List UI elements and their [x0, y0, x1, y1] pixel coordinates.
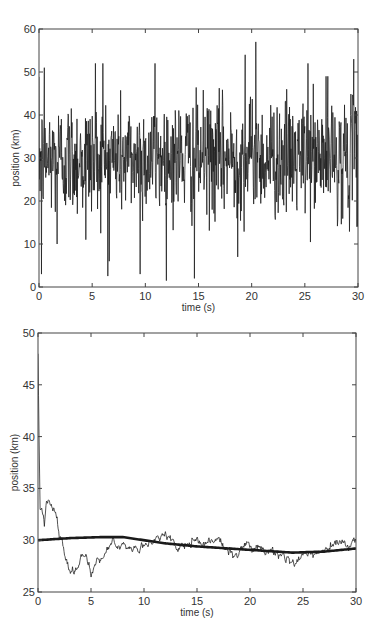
- x-tick-label: 10: [139, 290, 151, 302]
- chart-top-measured-position: 0510152025300102030405060time (s)positio…: [10, 23, 364, 313]
- x-tick-label: 15: [191, 595, 203, 607]
- x-axis-label: time (s): [182, 302, 215, 313]
- series-smoothed-estimate: [38, 537, 356, 553]
- x-tick-label: 15: [192, 290, 204, 302]
- x-tick-label: 5: [88, 595, 94, 607]
- x-tick-label: 0: [36, 290, 42, 302]
- y-axis-label: position (km): [10, 129, 21, 186]
- y-tick-label: 45: [23, 379, 35, 391]
- x-tick-label: 20: [244, 595, 256, 607]
- y-tick-label: 50: [23, 327, 35, 339]
- x-tick-label: 30: [352, 290, 364, 302]
- y-axis-label: position (km): [9, 434, 20, 491]
- y-tick-label: 40: [23, 431, 35, 443]
- x-tick-label: 5: [89, 290, 95, 302]
- x-tick-label: 25: [297, 595, 309, 607]
- y-tick-label: 20: [24, 195, 36, 207]
- y-tick-label: 50: [24, 66, 36, 78]
- y-tick-label: 40: [24, 109, 36, 121]
- x-tick-label: 20: [246, 290, 258, 302]
- y-tick-label: 35: [23, 482, 35, 494]
- x-axis-label: time (s): [180, 607, 213, 618]
- y-tick-label: 30: [24, 152, 36, 164]
- x-tick-label: 10: [138, 595, 150, 607]
- y-tick-label: 60: [24, 23, 36, 35]
- plot-area: [39, 42, 358, 281]
- x-tick-label: 30: [350, 595, 362, 607]
- chart-bottom-estimated-position: 051015202530253035404550time (s)position…: [9, 327, 362, 618]
- y-tick-label: 10: [24, 238, 36, 250]
- y-tick-label: 30: [23, 534, 35, 546]
- x-tick-label: 25: [299, 290, 311, 302]
- y-tick-label: 0: [30, 281, 36, 293]
- x-tick-label: 0: [35, 595, 41, 607]
- series-running-estimate: [38, 354, 356, 577]
- figure: 0510152025300102030405060time (s)positio…: [0, 0, 380, 634]
- y-tick-label: 25: [23, 586, 35, 598]
- plot-area: [38, 354, 356, 577]
- series-measured-position: [39, 42, 358, 281]
